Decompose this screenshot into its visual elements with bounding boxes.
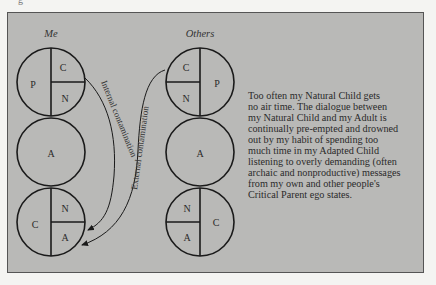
- me-parent-p-label: P: [30, 79, 36, 90]
- caption-line: much time in my Adapted Child: [248, 145, 428, 156]
- caption-line: Critical Parent ego states.: [248, 189, 428, 200]
- caption-line: no air time. The dialogue between: [248, 101, 428, 112]
- me-parent-n-label: N: [61, 93, 68, 104]
- others-parent-n-label: N: [182, 93, 189, 104]
- caption-line: Too often my Natural Child gets: [248, 90, 428, 101]
- caption-text: Too often my Natural Child gets no air t…: [248, 90, 428, 200]
- caption-line: listening to overly demanding (often: [248, 156, 428, 167]
- me-parent-c-label: C: [60, 62, 67, 73]
- caption-line: out by my habit of spending too: [248, 134, 428, 145]
- internal-contamination-label: Internal contamination: [99, 79, 139, 159]
- caption-line: my Natural Child and my Adult is: [248, 112, 428, 123]
- column-label-me: Me: [43, 28, 58, 39]
- others-child-n-label: N: [183, 203, 190, 214]
- others-child-a-label: A: [183, 232, 191, 243]
- me-child-c-label: C: [32, 219, 39, 230]
- caption-line: continually pre-empted and drowned: [248, 123, 428, 134]
- caption-line: archaic and nonproductive) messages: [248, 167, 428, 178]
- column-label-others: Others: [186, 28, 215, 39]
- me-child-n-label: N: [61, 203, 68, 214]
- me-child-a-label: A: [61, 232, 69, 243]
- others-parent-c-label: C: [183, 62, 190, 73]
- me-adult-a-label: A: [47, 148, 55, 159]
- others-adult-a-label: A: [196, 148, 204, 159]
- others-child-c-label: C: [213, 217, 220, 228]
- caption-line: from my own and other people's: [248, 178, 428, 189]
- external-contamination-arrow: [82, 70, 165, 245]
- others-parent-p-label: P: [214, 78, 220, 89]
